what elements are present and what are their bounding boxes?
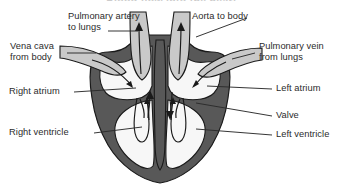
- septum: [154, 40, 165, 170]
- heart-diagram-figure: Blood flow into the heart: [0, 0, 343, 188]
- label-pulmonary-artery-line1: Pulmonary artery: [68, 11, 140, 22]
- label-vena-cava: Vena cava from body: [10, 41, 54, 63]
- label-left-ventricle-line1: Left ventricle: [276, 129, 329, 140]
- label-pulmonary-artery: Pulmonary artery to lungs: [68, 11, 140, 33]
- label-valve-line1: Valve: [276, 110, 299, 121]
- heart-illustration: [60, 12, 262, 183]
- label-right-ventricle-line1: Right ventricle: [9, 127, 69, 138]
- label-left-atrium-line1: Left atrium: [276, 83, 320, 94]
- label-aorta-line1: Aorta to body: [192, 11, 248, 22]
- label-right-atrium: Right atrium: [9, 86, 60, 97]
- label-left-ventricle: Left ventricle: [276, 129, 329, 140]
- label-pulmonary-artery-line2: to lungs: [68, 22, 140, 33]
- label-valve: Valve: [276, 110, 299, 121]
- label-left-atrium: Left atrium: [276, 83, 320, 94]
- label-vena-cava-line2: from body: [10, 52, 54, 63]
- label-vena-cava-line1: Vena cava: [10, 41, 54, 52]
- label-pulmonary-vein: Pulmonary vein from lungs: [259, 41, 324, 63]
- label-right-ventricle: Right ventricle: [9, 127, 69, 138]
- label-pulmonary-vein-line2: from lungs: [259, 52, 324, 63]
- label-pulmonary-vein-line1: Pulmonary vein: [259, 41, 324, 52]
- label-aorta: Aorta to body: [192, 11, 248, 22]
- label-right-atrium-line1: Right atrium: [9, 86, 60, 97]
